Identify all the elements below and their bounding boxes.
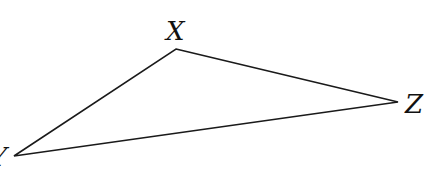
vertex-label-y: Y (0, 142, 10, 172)
triangle-xyz (14, 49, 398, 156)
vertex-label-x: X (164, 16, 186, 46)
triangle-diagram: X Z Y (0, 0, 428, 179)
vertex-label-z: Z (404, 89, 424, 119)
